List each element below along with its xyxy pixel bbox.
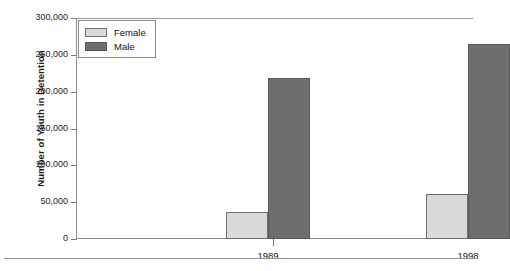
legend-label-male: Male — [114, 41, 135, 52]
footer-divider — [4, 258, 478, 259]
x-axis-label-1998: 1998 — [457, 250, 478, 261]
y-tick-label: 200,000 — [35, 86, 68, 96]
y-tick-mark — [71, 165, 77, 166]
bar-1998-female — [426, 194, 468, 239]
y-tick-mark — [71, 239, 77, 240]
y-tick-label: 100,000 — [35, 159, 68, 169]
legend-swatch-female-icon — [85, 28, 107, 37]
bar-1998-male — [468, 44, 510, 239]
y-tick-label: 250,000 — [35, 49, 68, 59]
bar-1989-female — [226, 212, 268, 239]
legend-label-female: Female — [114, 27, 146, 38]
plot-top-rule — [76, 18, 473, 19]
y-tick-mark — [71, 202, 77, 203]
x-axis-label-1989: 1989 — [257, 250, 278, 261]
footer-caption-clip — [0, 262, 482, 271]
bar-1989-male — [268, 78, 310, 239]
chart-legend: Female Male — [78, 20, 156, 58]
y-tick-label: 0 — [63, 233, 68, 243]
y-tick-mark — [71, 55, 77, 56]
y-tick-mark — [71, 92, 77, 93]
y-tick-label: 150,000 — [35, 123, 68, 133]
legend-item-female: Female — [85, 25, 146, 39]
legend-item-male: Male — [85, 39, 146, 53]
y-tick-label: 50,000 — [40, 196, 68, 206]
category-separator-tick — [273, 239, 274, 246]
y-tick-mark — [71, 129, 77, 130]
y-tick-label: 300,000 — [35, 12, 68, 22]
y-tick-mark — [71, 18, 77, 19]
legend-swatch-male-icon — [85, 42, 107, 51]
